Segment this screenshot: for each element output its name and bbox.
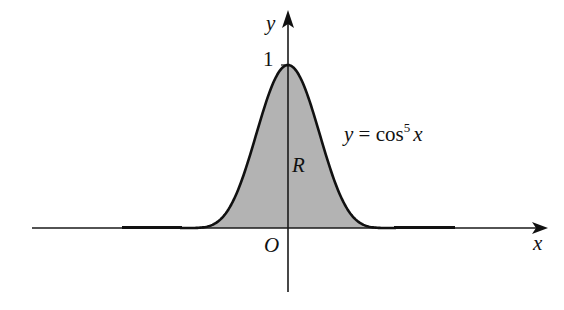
region-label: R	[291, 153, 305, 177]
cos5-diagram: y 1 R O x y = cos5x	[0, 0, 564, 310]
curve-label-eq: = cos	[353, 122, 403, 146]
curve-label-exponent: 5	[404, 120, 411, 135]
y-axis-label: y	[264, 11, 276, 35]
y-tick-one-label: 1	[263, 47, 274, 71]
x-axis-label: x	[532, 231, 543, 255]
curve-label-y: y	[342, 122, 354, 146]
curve-equation-label: y = cos5x	[342, 120, 423, 146]
curve-label-var: x	[412, 122, 423, 146]
origin-label: O	[264, 233, 279, 257]
